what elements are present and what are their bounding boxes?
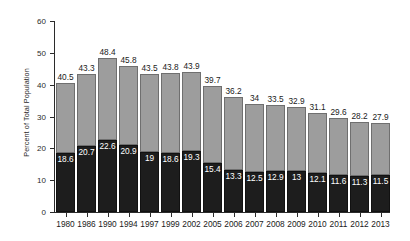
bar-lower-label: 18.6 (57, 154, 73, 164)
bar-lower-label: 19 (145, 153, 154, 163)
bar-column[interactable]: 28.211.3 (350, 122, 369, 212)
bar-total-label: 48.4 (99, 47, 115, 57)
bar-segment-upper[interactable] (98, 58, 117, 140)
bar-segment-upper[interactable] (182, 72, 201, 150)
bar-lower-label: 11.6 (331, 176, 347, 186)
bar-total-label: 43.3 (78, 63, 94, 73)
bar-segment-upper[interactable] (56, 83, 75, 153)
x-axis-label: 2011 (330, 219, 348, 229)
bar-column[interactable]: 27.911.5 (371, 123, 390, 212)
x-axis-label: 1997 (140, 219, 158, 229)
y-tick-label: 30 (22, 112, 46, 121)
bar-total-label: 34 (250, 93, 259, 103)
bar-column[interactable]: 48.422.6 (98, 58, 117, 212)
x-axis-label: 1986 (77, 219, 95, 229)
bar-total-label: 29.6 (330, 107, 346, 117)
x-axis-label: 1999 (161, 219, 179, 229)
x-tick-mark (108, 212, 109, 217)
x-tick-mark (234, 212, 235, 217)
x-axis-label: 2002 (182, 219, 200, 229)
x-axis-label: 2010 (308, 219, 326, 229)
bar-series-group: 40.518.643.320.748.422.645.820.943.51943… (55, 21, 390, 212)
x-axis-label: 1990 (98, 219, 116, 229)
x-axis-label: 2009 (287, 219, 305, 229)
bar-total-label: 43.9 (183, 61, 199, 71)
x-tick-mark (129, 212, 130, 217)
bar-segment-upper[interactable] (224, 97, 243, 170)
bar-segment-upper[interactable] (245, 104, 264, 172)
x-axis-line (54, 212, 390, 213)
y-tick-label: 40 (22, 80, 46, 89)
bar-lower-label: 11.5 (373, 176, 389, 186)
bar-total-label: 33.5 (267, 94, 283, 104)
y-tick-label: 0 (22, 208, 46, 217)
x-tick-mark (66, 212, 67, 217)
bar-total-label: 39.7 (204, 75, 220, 85)
bar-total-label: 36.2 (225, 86, 241, 96)
bar-segment-upper[interactable] (119, 66, 138, 145)
x-tick-mark (192, 212, 193, 217)
bar-segment-upper[interactable] (329, 118, 348, 175)
bar-column[interactable]: 29.611.6 (329, 118, 348, 212)
y-tick-label: 20 (22, 144, 46, 153)
bar-column[interactable]: 33.512.9 (266, 105, 285, 212)
x-tick-mark (339, 212, 340, 217)
y-tick-label: 60 (22, 17, 46, 26)
bar-total-label: 43.5 (141, 63, 157, 73)
x-axis-label: 2007 (245, 219, 263, 229)
x-axis-label: 2006 (224, 219, 242, 229)
bar-total-label: 27.9 (372, 112, 388, 122)
bar-segment-upper[interactable] (371, 123, 390, 175)
y-tick-mark (50, 212, 55, 213)
bar-segment-upper[interactable] (308, 113, 327, 173)
bar-total-label: 28.2 (351, 111, 367, 121)
bar-column[interactable]: 43.818.6 (161, 73, 180, 212)
x-tick-mark (171, 212, 172, 217)
bar-total-label: 43.8 (162, 62, 178, 72)
bar-segment-upper[interactable] (350, 122, 369, 176)
x-axis-label: 2012 (350, 219, 368, 229)
bar-lower-label: 12.9 (267, 172, 283, 182)
bar-column[interactable]: 39.715.4 (203, 86, 222, 212)
bar-column[interactable]: 43.519 (140, 74, 159, 212)
x-axis-label: 2005 (203, 219, 221, 229)
bar-lower-label: 19.3 (183, 152, 199, 162)
bar-segment-upper[interactable] (140, 74, 159, 152)
x-tick-mark (255, 212, 256, 217)
bar-column[interactable]: 43.919.3 (182, 72, 201, 212)
bar-lower-label: 18.6 (162, 154, 178, 164)
x-tick-mark (318, 212, 319, 217)
bar-lower-label: 22.6 (99, 141, 115, 151)
bar-column[interactable]: 36.213.3 (224, 97, 243, 212)
bar-column[interactable]: 43.320.7 (77, 74, 96, 212)
bar-segment-upper[interactable] (266, 105, 285, 171)
x-axis-label: 1980 (56, 219, 74, 229)
x-tick-mark (150, 212, 151, 217)
bar-column[interactable]: 40.518.6 (56, 83, 75, 212)
bar-lower-label: 15.4 (204, 164, 220, 174)
bar-segment-upper[interactable] (287, 107, 306, 170)
bar-segment-upper[interactable] (77, 74, 96, 146)
bar-lower-label: 12.1 (309, 174, 325, 184)
bar-lower-label: 13.3 (225, 171, 241, 181)
x-axis-label: 1994 (119, 219, 137, 229)
x-tick-mark (360, 212, 361, 217)
x-tick-mark (297, 212, 298, 217)
x-axis-label: 2013 (371, 219, 389, 229)
bar-lower-label: 12.5 (246, 173, 262, 183)
y-tick-label: 10 (22, 176, 46, 185)
bar-column[interactable]: 32.913 (287, 107, 306, 212)
bar-column[interactable]: 3412.5 (245, 104, 264, 212)
x-tick-mark (276, 212, 277, 217)
bar-column[interactable]: 45.820.9 (119, 66, 138, 212)
x-tick-mark (87, 212, 88, 217)
bar-column[interactable]: 31.112.1 (308, 113, 327, 212)
bar-segment-upper[interactable] (203, 86, 222, 163)
bar-total-label: 31.1 (309, 102, 325, 112)
bar-total-label: 40.5 (57, 72, 73, 82)
bar-total-label: 32.9 (288, 96, 304, 106)
bar-segment-upper[interactable] (161, 73, 180, 153)
x-tick-mark (381, 212, 382, 217)
bar-total-label: 45.8 (120, 55, 136, 65)
plot-area: 0102030405060 40.518.643.320.748.422.645… (55, 21, 390, 212)
